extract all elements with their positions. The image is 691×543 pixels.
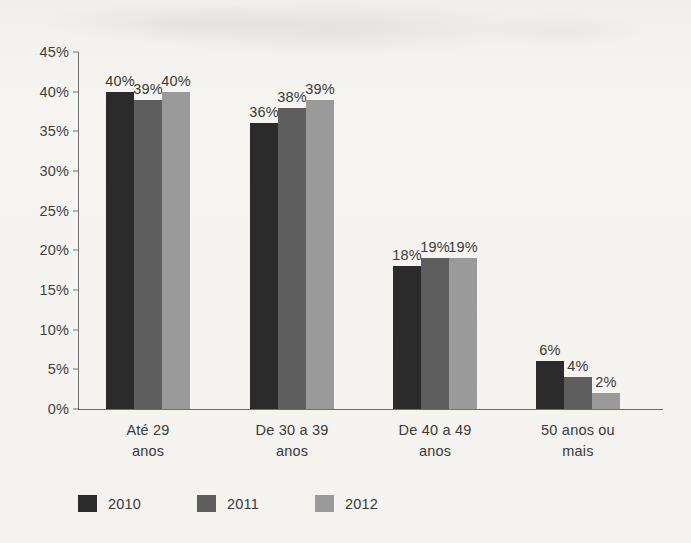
bar-2011-2[interactable]: 38% [278,52,306,409]
category-label-2: De 30 a 39anos [222,420,362,462]
category-label-line: anos [78,441,218,462]
bar-2010-1[interactable]: 40% [106,52,134,409]
bar-2010-3[interactable]: 18% [393,52,421,409]
category-label-line: Até 29 [78,420,218,441]
category-label-4: 50 anos oumais [508,420,648,462]
category-label-1: Até 29anos [78,420,218,462]
bar-2012-3[interactable]: 19% [449,52,477,409]
bar-2012-4[interactable]: 2% [592,52,620,409]
x-axis-line [78,409,663,410]
bar-rect [592,393,620,409]
y-tick-mark [73,369,78,370]
y-tick-mark [73,290,78,291]
y-tick-mark [73,250,78,251]
bar-value-label: 38% [277,89,307,105]
category-label-3: De 40 a 49anos [365,420,505,462]
bar-value-label: 2% [595,374,616,390]
grouped-bar-chart: 0%5%10%15%20%25%30%35%40%45% 40%39%40%36… [0,0,691,543]
legend-label: 2011 [227,496,259,512]
legend-label: 2010 [108,496,141,512]
category-label-line: anos [222,441,362,462]
bar-group-1: 40%39%40% [106,52,190,409]
bar-value-label: 40% [161,73,191,89]
bar-rect [421,258,449,409]
y-tick-mark [73,91,78,92]
category-label-line: mais [508,441,648,462]
bar-2012-1[interactable]: 40% [162,52,190,409]
bar-rect [106,92,134,409]
bar-2010-4[interactable]: 6% [536,52,564,409]
bar-value-label: 19% [448,239,478,255]
bar-2011-3[interactable]: 19% [421,52,449,409]
bar-group-4: 6%4%2% [536,52,620,409]
bar-value-label: 40% [105,73,135,89]
y-tick-mark [73,171,78,172]
bar-rect [250,123,278,409]
y-tick-mark [73,210,78,211]
bar-value-label: 39% [133,81,163,97]
plot-area: 0%5%10%15%20%25%30%35%40%45% 40%39%40%36… [78,52,663,410]
bar-rect [306,100,334,409]
bar-rect [162,92,190,409]
chart-legend: 201020112012 [78,495,434,512]
bar-value-label: 19% [420,239,450,255]
bar-value-label: 6% [539,342,560,358]
bar-value-label: 36% [249,104,279,120]
bar-rect [278,108,306,409]
legend-item-2011[interactable]: 2011 [197,495,259,512]
bar-value-label: 4% [567,358,588,374]
category-label-line: De 30 a 39 [222,420,362,441]
bar-group-2: 36%38%39% [250,52,334,409]
legend-swatch-icon [197,495,216,512]
legend-swatch-icon [78,495,97,512]
legend-item-2010[interactable]: 2010 [78,495,141,512]
category-label-line: 50 anos ou [508,420,648,441]
legend-swatch-icon [315,495,334,512]
y-tick-mark [73,52,78,53]
legend-item-2012[interactable]: 2012 [315,495,378,512]
bar-rect [536,361,564,409]
y-axis-line [78,52,79,410]
category-label-line: De 40 a 49 [365,420,505,441]
category-label-line: anos [365,441,505,462]
y-tick-mark [73,329,78,330]
bar-2011-1[interactable]: 39% [134,52,162,409]
bar-rect [134,100,162,409]
bar-rect [449,258,477,409]
bar-2011-4[interactable]: 4% [564,52,592,409]
legend-label: 2012 [345,496,378,512]
bar-group-3: 18%19%19% [393,52,477,409]
bar-value-label: 39% [305,81,335,97]
y-tick-mark [73,409,78,410]
bar-rect [564,377,592,409]
bar-value-label: 18% [392,247,422,263]
bar-2010-2[interactable]: 36% [250,52,278,409]
y-tick-mark [73,131,78,132]
bar-2012-2[interactable]: 39% [306,52,334,409]
bar-rect [393,266,421,409]
